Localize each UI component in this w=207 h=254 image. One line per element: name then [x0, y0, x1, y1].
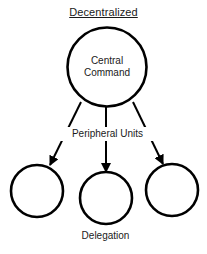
child-node-middle-circle: [80, 172, 132, 224]
child-node-right-circle: [146, 164, 198, 216]
peripheral-units-label: Peripheral Units: [53, 127, 162, 141]
central-command-label-line-1: Central: [67, 55, 147, 67]
page-title: Decentralized: [0, 6, 207, 19]
child-node-left-circle: [11, 165, 63, 217]
decentralized-diagram: Decentralized Central Command Peripheral…: [0, 0, 207, 254]
central-command-label: Central Command: [67, 55, 147, 79]
central-command-label-line-2: Command: [67, 67, 147, 79]
delegation-label: Delegation: [53, 230, 158, 242]
